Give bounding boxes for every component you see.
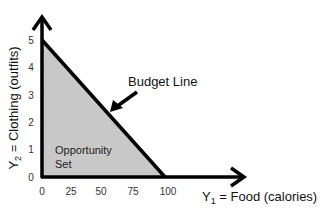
budget-arrow-shaft	[116, 92, 137, 107]
opportunity-set-label-2: Set	[55, 158, 72, 170]
svg-text:0: 0	[28, 172, 34, 183]
svg-text:3: 3	[28, 90, 34, 101]
svg-text:0: 0	[39, 186, 45, 197]
svg-text:5: 5	[28, 35, 34, 46]
y-tick-labels: 0 1 2 3 4 5	[28, 35, 34, 183]
x-tick-labels: 0 25 50 75 100	[39, 186, 177, 197]
y-axis-label: Y2 = Clothing (outfits)	[6, 46, 23, 169]
svg-text:4: 4	[28, 62, 34, 73]
svg-text:25: 25	[65, 186, 77, 197]
budget-chart: 0 1 2 3 4 5 0 25 50 75 100 Y1 = Food (ca…	[0, 0, 325, 216]
svg-text:75: 75	[127, 186, 139, 197]
x-axis-label: Y1 = Food (calories)	[202, 189, 317, 206]
opportunity-set-label-1: Opportunity	[55, 144, 112, 156]
svg-text:1: 1	[28, 144, 34, 155]
svg-text:2: 2	[28, 117, 34, 128]
svg-text:50: 50	[95, 186, 107, 197]
svg-text:100: 100	[160, 186, 177, 197]
budget-line-label: Budget Line	[128, 74, 197, 89]
